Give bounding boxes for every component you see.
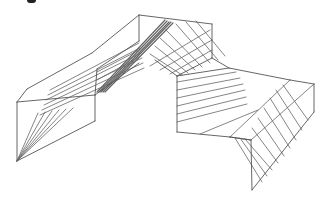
hatch-line	[283, 85, 308, 120]
outline-edge	[251, 140, 252, 190]
outline-edges	[17, 15, 314, 190]
hatch-line	[270, 98, 296, 140]
hatch-line	[177, 84, 243, 98]
hatch-line	[264, 108, 290, 148]
hatch-line	[101, 22, 169, 92]
hatch-line	[150, 30, 210, 66]
outline-edge	[139, 15, 212, 24]
hatch-line	[177, 97, 246, 114]
left-roof-hatch	[40, 43, 144, 115]
hatch-line	[252, 128, 278, 163]
hatch-line	[17, 111, 52, 161]
hatch-line	[170, 50, 212, 74]
hatch-line	[97, 20, 165, 92]
hatch-line	[17, 110, 59, 161]
outline-edge	[92, 15, 139, 53]
mid-panel-hatch	[177, 72, 258, 134]
outline-edge	[230, 137, 251, 140]
outline-edge	[290, 80, 314, 84]
hatch-line	[235, 138, 262, 182]
hatch-line	[251, 84, 314, 140]
outline-edge	[212, 58, 229, 68]
hatch-line	[245, 139, 272, 170]
hatch-line	[276, 90, 302, 130]
hatch-lines	[17, 20, 314, 182]
outline-edge	[95, 69, 97, 95]
center-diag-hatch	[150, 21, 225, 75]
hatch-line	[99, 21, 167, 92]
hatch-line	[17, 109, 66, 161]
hatch-line	[17, 113, 38, 161]
hatch-line	[258, 118, 284, 156]
hatch-line	[240, 138, 267, 176]
hatch-line	[17, 108, 73, 161]
outline-edge	[27, 53, 92, 89]
hatch-line	[177, 90, 245, 106]
outline-edge	[17, 89, 27, 102]
hatch-line	[230, 80, 290, 137]
right-cap-hatch	[230, 80, 314, 140]
wireframe-figure	[0, 0, 329, 201]
left-fan-hatch	[17, 108, 73, 161]
hatch-line	[177, 78, 240, 90]
hatch-line	[48, 48, 140, 95]
outline-edge	[252, 112, 314, 190]
outline-edge	[17, 95, 95, 102]
